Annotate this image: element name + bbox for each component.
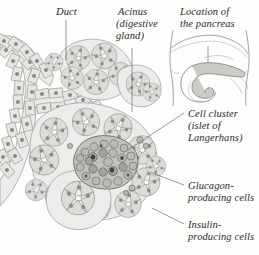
label-location-line2: the pancreas [180, 18, 235, 30]
label-acinus-line1: Acinus [118, 6, 147, 18]
label-glucagon-line2: producing cells [188, 192, 254, 204]
label-location-line1: Location of [180, 6, 229, 18]
insulin-leader-line [152, 208, 184, 224]
label-insulin-line2: producing cells [188, 231, 254, 243]
label-duct: Duct [56, 6, 77, 18]
label-glucagon-line1: Glucagon- [188, 180, 234, 192]
pancreas-histology-figure: .ln{fill:none;stroke:#9a9a9a;stroke-widt… [0, 0, 259, 255]
label-acinus-line2: (digestive [116, 18, 158, 30]
islet-of-langerhans-icon [74, 136, 138, 189]
label-islet-line3: Langerhans) [188, 132, 243, 144]
pancreas-icon [181, 56, 248, 103]
label-islet-line1: Cell cluster [188, 108, 238, 120]
label-insulin-line1: Insulin- [188, 219, 221, 231]
label-islet-line2: (islet of [188, 120, 221, 132]
label-acinus-line3: gland) [116, 30, 144, 42]
